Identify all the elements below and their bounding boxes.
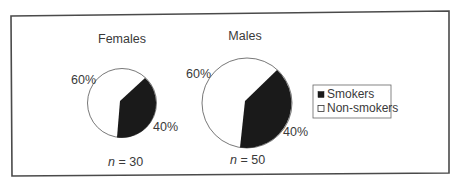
females-nonsmokers-pct: 60% — [71, 73, 96, 87]
males-nonsmokers-pct: 60% — [186, 67, 211, 81]
legend-smokers-label: Smokers — [327, 87, 374, 101]
smokers-swatch-icon — [318, 92, 324, 98]
females-n-label: n = 30 — [108, 155, 143, 169]
females-pie — [88, 69, 157, 138]
males-n-label: n = 50 — [230, 153, 265, 167]
legend-nonsmokers-label: Non-smokers — [327, 101, 398, 115]
males-smokers-pct: 40% — [283, 125, 308, 139]
chart-canvas: Females 60% 40% n = 30 Males 60% 40% n =… — [0, 0, 460, 188]
males-title: Males — [228, 29, 261, 43]
females-title: Females — [98, 32, 146, 46]
females-smokers-pct: 40% — [153, 120, 178, 134]
legend: Smokers Non-smokers — [313, 85, 398, 118]
males-pie — [202, 58, 292, 148]
nonsmokers-swatch-icon — [318, 106, 324, 112]
